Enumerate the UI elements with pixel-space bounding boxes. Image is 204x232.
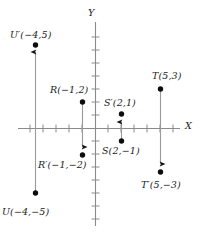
y-axis-label: Y <box>88 8 94 18</box>
point-label-t-prime: T′(5,−3) <box>141 180 181 190</box>
point-u <box>33 190 38 195</box>
x-axis-label: X <box>185 121 192 131</box>
point-label-u-prime: U′(−4,5) <box>10 30 51 40</box>
point-label-t: T(5,3) <box>152 71 181 81</box>
vector-t-to-tprime <box>158 86 163 174</box>
point-label-s: S(2,−1) <box>102 146 140 156</box>
vector-s-to-sprime <box>119 111 124 143</box>
point-s-prime <box>119 111 124 116</box>
point-label-r-prime: R′(−1,−2) <box>38 160 87 170</box>
vector-u-to-uprime <box>33 42 38 195</box>
coordinate-plane-figure: Y X U′(−4,5) U(−4,−5) R(−1,2) R′(−1,−2) … <box>0 0 204 232</box>
point-s <box>119 138 124 143</box>
point-t <box>158 86 163 91</box>
point-label-s-prime: S′(2,1) <box>104 98 136 108</box>
point-t-prime <box>158 169 163 174</box>
point-label-r: R(−1,2) <box>50 85 88 95</box>
point-r <box>80 99 85 104</box>
point-r-prime <box>80 152 85 157</box>
x-axis <box>18 125 180 133</box>
y-axis <box>92 22 100 226</box>
point-label-u: U(−4,−5) <box>2 207 49 217</box>
point-u-prime <box>33 42 38 47</box>
